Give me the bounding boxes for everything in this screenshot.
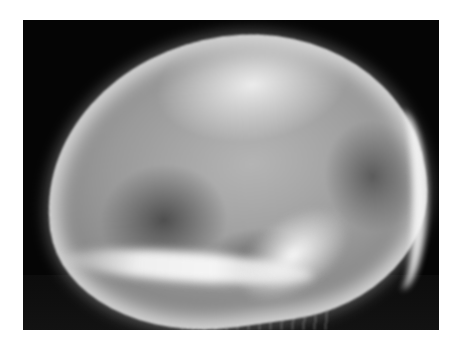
occipital-rim xyxy=(373,110,427,290)
xray-image xyxy=(23,20,439,330)
